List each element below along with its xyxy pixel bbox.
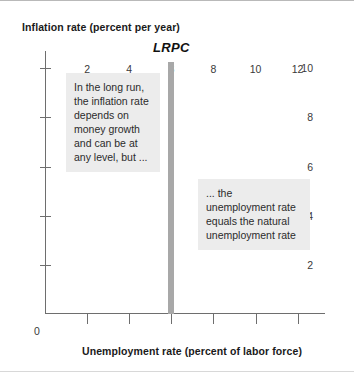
y-tick-label: 6 xyxy=(307,161,313,173)
x-tick-mark xyxy=(171,313,172,324)
y-tick-label: 2 xyxy=(307,259,313,271)
x-tick-label: 12 xyxy=(292,63,304,75)
x-axis-title: Unemployment rate (percent of labor forc… xyxy=(0,345,354,357)
annotation-right: ... the unemployment rate equals the nat… xyxy=(198,179,310,250)
x-tick-mark xyxy=(87,313,88,324)
y-tick-label: 8 xyxy=(307,111,313,123)
y-tick-mark xyxy=(40,68,51,69)
y-tick-mark xyxy=(40,265,51,266)
x-tick-mark xyxy=(256,313,257,324)
lrpc-curve xyxy=(168,62,174,314)
phillips-curve-figure: Inflation rate (percent per year) 246810… xyxy=(0,0,354,372)
x-tick-label: 10 xyxy=(250,63,262,75)
x-tick-mark xyxy=(129,313,130,324)
y-tick-mark xyxy=(40,216,51,217)
x-tick-label: 8 xyxy=(210,63,216,75)
x-tick-mark xyxy=(298,313,299,324)
y-tick-mark xyxy=(40,117,51,118)
lrpc-curve-label: LRPC xyxy=(153,40,190,55)
origin-tick-label: 0 xyxy=(34,325,40,337)
y-tick-mark xyxy=(40,167,51,168)
y-axis-line xyxy=(45,51,46,314)
y-axis-title: Inflation rate (percent per year) xyxy=(22,21,180,33)
annotation-left: In the long run, the inflation rate depe… xyxy=(66,73,160,172)
x-tick-mark xyxy=(213,313,214,324)
